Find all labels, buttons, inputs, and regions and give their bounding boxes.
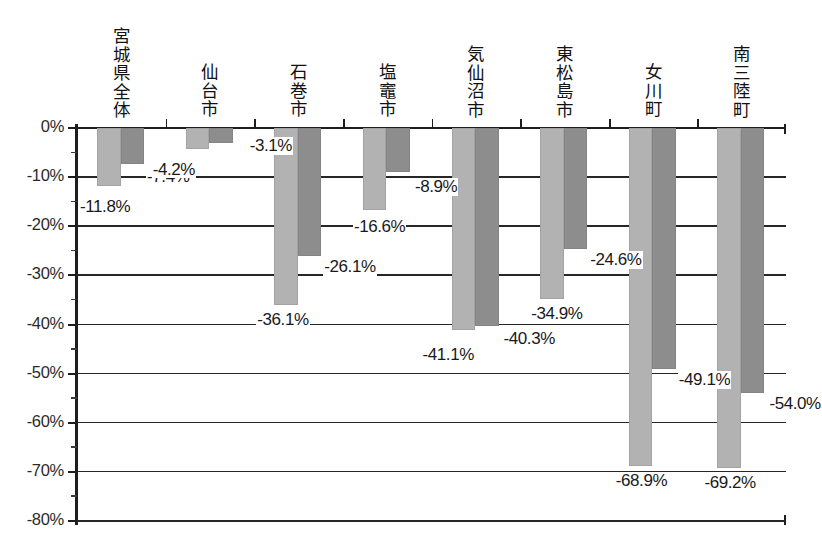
value-label-light-1: -4.2%	[152, 161, 196, 179]
y-axis-minor-tick	[71, 495, 77, 497]
y-axis-tick	[68, 373, 77, 375]
value-label-light-3: -16.6%	[353, 218, 406, 236]
value-label-dark-1: -3.1%	[249, 137, 293, 155]
category-label-2: 石巻市	[288, 63, 306, 119]
bar-light-6	[629, 128, 653, 466]
x-axis-tick-2	[254, 119, 256, 128]
bar-light-7	[717, 128, 741, 468]
bar-light-4	[452, 128, 476, 330]
y-axis-tick	[68, 520, 77, 522]
bar-dark-1	[209, 128, 233, 143]
y-axis-tick	[68, 324, 77, 326]
value-label-light-6: -68.9%	[615, 472, 668, 490]
y-axis-minor-tick	[71, 250, 77, 252]
y-axis-label-2: -20%	[0, 215, 64, 234]
value-label-dark-4: -40.3%	[503, 330, 556, 348]
y-axis-label-5: -50%	[0, 363, 64, 382]
bar-dark-2	[298, 128, 322, 256]
y-axis-label-0: 0%	[0, 117, 64, 136]
x-axis-tick-6	[609, 119, 611, 128]
bar-light-5	[540, 128, 564, 299]
x-axis-tick-1	[166, 119, 168, 128]
gridline--80	[77, 520, 786, 522]
bar-light-1	[186, 128, 210, 149]
y-axis-tick	[68, 127, 77, 129]
bar-dark-6	[652, 128, 676, 369]
x-axis-tick-3	[343, 119, 345, 128]
x-axis-tick-4	[432, 119, 434, 128]
category-label-7: 南三陸町	[731, 45, 749, 119]
y-axis-minor-tick	[71, 299, 77, 301]
y-axis-minor-tick	[71, 348, 77, 350]
y-axis-minor-tick	[71, 201, 77, 203]
value-label-light-2: -36.1%	[256, 311, 309, 329]
bar-dark-0	[121, 128, 145, 164]
value-label-dark-3: -8.9%	[414, 178, 458, 196]
y-axis-tick	[68, 471, 77, 473]
value-label-dark-6: -49.1%	[678, 371, 731, 389]
category-label-0: 宮城県全体	[111, 27, 129, 120]
plot-right-cap-top	[784, 124, 786, 134]
value-label-dark-2: -26.1%	[323, 258, 376, 276]
category-label-5: 東松島市	[554, 45, 572, 119]
x-axis-tick-7	[697, 119, 699, 128]
category-label-6: 女川町	[642, 63, 660, 119]
y-axis-tick	[68, 225, 77, 227]
bar-dark-5	[564, 128, 588, 249]
y-axis-label-6: -60%	[0, 412, 64, 431]
y-axis-label-3: -30%	[0, 264, 64, 283]
y-axis-label-4: -40%	[0, 314, 64, 333]
gridline--60	[77, 422, 786, 424]
gridline--70	[77, 471, 786, 473]
y-axis-label-1: -10%	[0, 166, 64, 185]
y-axis-label-7: -70%	[0, 461, 64, 480]
value-label-light-0: -11.8%	[79, 198, 131, 216]
value-label-dark-5: -24.6%	[589, 251, 642, 269]
category-label-3: 塩竈市	[376, 63, 394, 119]
bar-dark-3	[386, 128, 410, 172]
value-label-dark-7: -54.0%	[768, 395, 821, 413]
gridline--40	[77, 324, 786, 326]
y-axis-tick	[68, 274, 77, 276]
y-axis-minor-tick	[71, 152, 77, 154]
y-axis-label-8: -80%	[0, 510, 64, 529]
bar-dark-4	[475, 128, 499, 326]
y-axis-tick	[68, 176, 77, 178]
category-label-4: 気仙沼市	[465, 45, 483, 119]
y-axis-minor-tick	[71, 446, 77, 448]
bar-light-0	[97, 128, 121, 186]
bar-dark-7	[741, 128, 765, 393]
value-label-light-5: -34.9%	[530, 305, 583, 323]
value-label-light-4: -41.1%	[422, 346, 475, 364]
gridline--30	[77, 274, 786, 276]
y-axis-minor-tick	[71, 397, 77, 399]
value-label-light-7: -69.2%	[703, 474, 756, 492]
y-axis-tick	[68, 422, 77, 424]
category-label-1: 仙台市	[199, 63, 217, 119]
bar-light-3	[363, 128, 387, 210]
gridline--20	[77, 225, 786, 227]
x-axis-tick-5	[520, 119, 522, 128]
